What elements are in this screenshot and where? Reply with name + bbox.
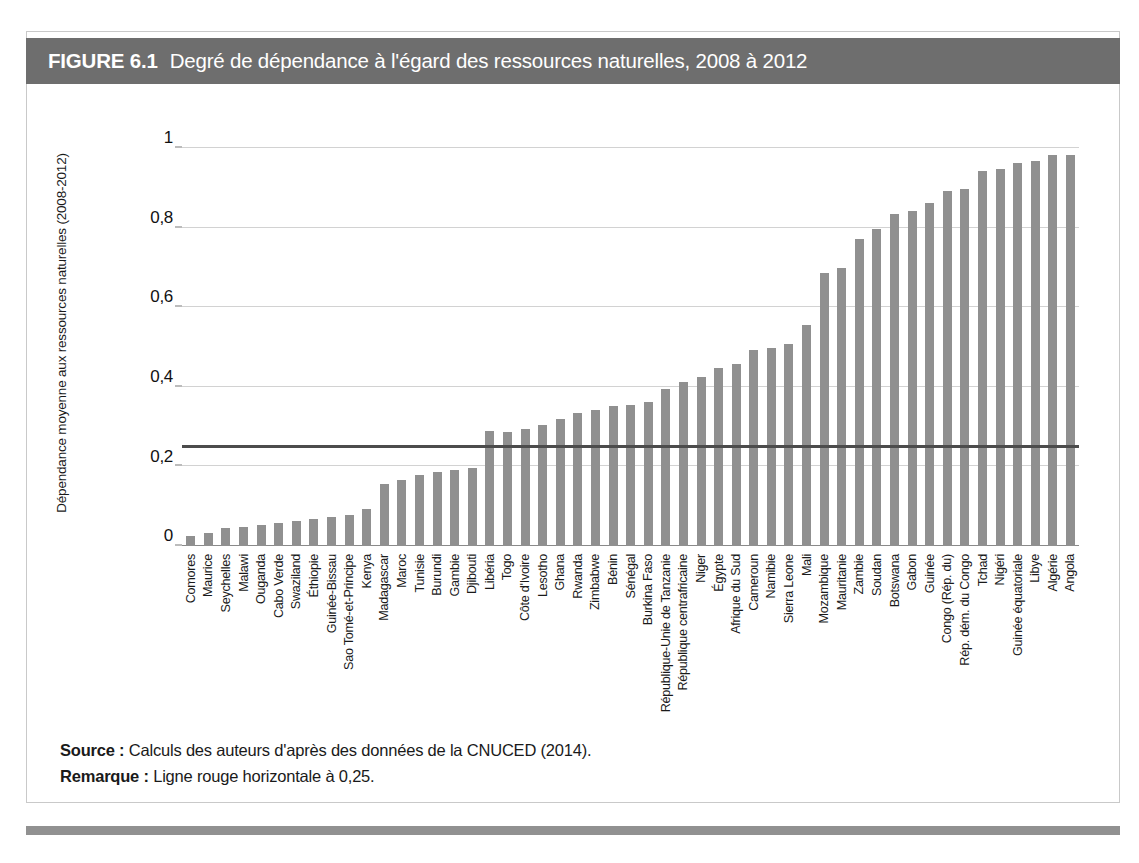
figure-number: FIGURE 6.1 — [48, 49, 158, 73]
category-slot: Congo (Rép. du) — [939, 548, 957, 748]
category-slot: Namibie — [763, 548, 781, 748]
x-tick-label: Mozambique — [818, 554, 831, 624]
bar-slot — [939, 148, 957, 546]
bar — [591, 410, 600, 546]
x-tick-label: Ouganda — [255, 554, 268, 604]
category-slot: Malawi — [235, 548, 253, 748]
bar-slot — [270, 148, 288, 546]
bar — [837, 268, 846, 546]
category-slot: Maroc — [393, 548, 411, 748]
bar-slot — [340, 148, 358, 546]
bar — [309, 519, 318, 546]
x-tick-label: Botswana — [888, 554, 901, 607]
x-tick-label: Seychelles — [220, 554, 233, 612]
bar — [186, 536, 195, 546]
category-slot: Soudan — [868, 548, 886, 748]
bar — [345, 515, 354, 546]
category-slot: Djibouti — [464, 548, 482, 748]
plot-area: 00,20,40,60,81 — [182, 148, 1079, 546]
bar-slot — [604, 148, 622, 546]
x-tick-label: Côte d'Ivoire — [519, 554, 532, 621]
x-tick-label: République-Unie de Tanzanie — [660, 554, 673, 712]
figure-page: FIGURE 6.1 Degré de dépendance à l'égard… — [0, 0, 1139, 863]
category-slot: Libéria — [481, 548, 499, 748]
x-tick-label: Sierra Leone — [783, 554, 796, 623]
x-tick-label: Lesotho — [536, 554, 549, 597]
category-slot: République-Unie de Tanzanie — [657, 548, 675, 748]
bar-slot — [727, 148, 745, 546]
bar — [468, 468, 477, 546]
bar-slot — [323, 148, 341, 546]
x-tick-label: République centrafricaine — [677, 554, 690, 691]
bar — [1013, 163, 1022, 546]
bar-slot — [305, 148, 323, 546]
x-axis-category-labels: ComoresMauriceSeychellesMalawiOugandaCab… — [182, 548, 1079, 748]
bar-slot — [516, 148, 534, 546]
bar-slot — [657, 148, 675, 546]
bar — [1031, 161, 1040, 546]
figure-title: Degré de dépendance à l'égard des ressou… — [170, 49, 808, 73]
bar-slot — [991, 148, 1009, 546]
category-slot: Tchad — [974, 548, 992, 748]
bar — [450, 470, 459, 546]
bar-slot — [692, 148, 710, 546]
category-slot: Burkina Faso — [639, 548, 657, 748]
bar-slot — [411, 148, 429, 546]
bar — [925, 203, 934, 546]
bar-slot — [868, 148, 886, 546]
bar-slot — [763, 148, 781, 546]
bar — [257, 525, 266, 546]
source-label: Source : — [60, 741, 124, 759]
category-slot: Mali — [798, 548, 816, 748]
category-slot: Lesotho — [534, 548, 552, 748]
x-tick-label: Algérie — [1047, 554, 1060, 591]
x-tick-label: Zimbabwe — [589, 554, 602, 610]
bar-slot — [815, 148, 833, 546]
category-slot: Côte d'Ivoire — [516, 548, 534, 748]
bars-group — [182, 148, 1079, 546]
y-tick-mark — [175, 226, 182, 227]
bar-slot — [745, 148, 763, 546]
category-slot: Zambie — [851, 548, 869, 748]
bar — [802, 325, 811, 546]
bar — [397, 480, 406, 546]
category-slot: Swaziland — [288, 548, 306, 748]
bar-slot — [288, 148, 306, 546]
bar — [855, 239, 864, 546]
bar — [433, 472, 442, 546]
category-slot: Rép. dém. du Congo — [956, 548, 974, 748]
y-tick-mark — [175, 465, 182, 466]
x-tick-label: Libye — [1029, 554, 1042, 583]
bar-slot — [587, 148, 605, 546]
bar — [556, 419, 565, 546]
bar-slot — [499, 148, 517, 546]
bar — [239, 527, 248, 546]
remark-note: Remarque : Ligne rouge horizontale à 0,2… — [60, 764, 1060, 790]
category-slot: Mauritanie — [833, 548, 851, 748]
bar-slot — [481, 148, 499, 546]
x-tick-label: Afrique du Sud — [730, 554, 743, 634]
category-slot: Nigéri — [991, 548, 1009, 748]
figure-notes: Source : Calculs des auteurs d'après des… — [60, 738, 1060, 789]
bar — [274, 523, 283, 546]
x-tick-label: Gabon — [906, 554, 919, 591]
bar — [890, 214, 899, 546]
x-tick-label: Cabo Verde — [272, 554, 285, 618]
category-slot: Guinée-Bissau — [323, 548, 341, 748]
x-tick-label: Ghana — [554, 554, 567, 591]
y-axis-title: Dépendance moyenne aux ressources nature… — [54, 118, 72, 548]
bar — [679, 382, 688, 546]
x-tick-label: Swaziland — [290, 554, 303, 609]
bar — [327, 517, 336, 546]
category-slot: Mozambique — [815, 548, 833, 748]
x-tick-label: Tchad — [976, 554, 989, 586]
y-tick-label: 0,4 — [150, 367, 173, 387]
bar-slot — [217, 148, 235, 546]
x-tick-label: Guinée — [923, 554, 936, 593]
bar-slot — [551, 148, 569, 546]
bar — [820, 273, 829, 546]
y-tick-label: 0,8 — [150, 208, 173, 228]
bar — [960, 189, 969, 546]
bar-slot — [903, 148, 921, 546]
category-slot: Madagascar — [376, 548, 394, 748]
